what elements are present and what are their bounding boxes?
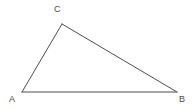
vertex-label-B: B: [179, 95, 185, 104]
triangle-diagram: A B C: [0, 0, 194, 108]
vertex-label-C: C: [54, 5, 61, 14]
vertex-label-A: A: [9, 95, 15, 104]
triangle-svg-canvas: [0, 0, 194, 108]
